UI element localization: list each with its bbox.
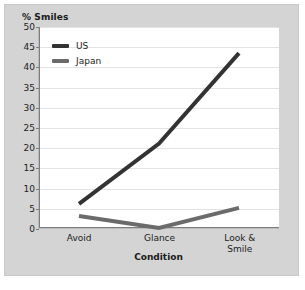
legend-label-japan: Japan bbox=[76, 56, 101, 66]
x-tick-label: Avoid bbox=[67, 233, 92, 244]
legend: US Japan bbox=[52, 38, 101, 68]
y-tick-label: 20 bbox=[24, 143, 35, 153]
y-tick-label: 15 bbox=[24, 163, 35, 173]
y-tick-mark bbox=[36, 229, 39, 230]
legend-swatch-japan bbox=[52, 59, 69, 63]
x-tick-label: Glance bbox=[144, 233, 175, 244]
y-tick-label: 35 bbox=[24, 83, 35, 93]
legend-item-japan: Japan bbox=[52, 53, 101, 68]
y-tick-label: 10 bbox=[24, 184, 35, 194]
legend-label-us: US bbox=[76, 41, 88, 51]
y-tick-label: 50 bbox=[24, 22, 35, 32]
y-axis-title: % Smiles bbox=[22, 12, 68, 22]
y-tick-label: 45 bbox=[24, 42, 35, 52]
y-tick-label: 5 bbox=[29, 204, 35, 214]
legend-swatch-us bbox=[52, 44, 69, 48]
y-tick-label: 0 bbox=[29, 224, 35, 234]
y-tick-label: 30 bbox=[24, 103, 35, 113]
series-line-us bbox=[79, 53, 239, 204]
y-tick-label: 40 bbox=[24, 62, 35, 72]
y-tick-label: 25 bbox=[24, 123, 35, 133]
series-line-japan bbox=[79, 208, 239, 228]
chart-screenshot: % Smiles 50454035302520151050 AvoidGlanc… bbox=[0, 0, 305, 290]
legend-item-us: US bbox=[52, 38, 101, 53]
x-axis-title: Condition bbox=[38, 252, 279, 262]
